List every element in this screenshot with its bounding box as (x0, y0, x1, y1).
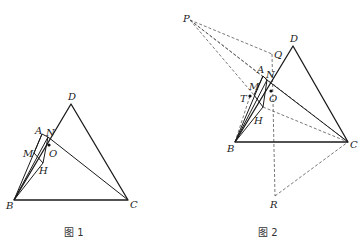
point-o-dot (47, 143, 50, 146)
dashed-pq (190, 20, 272, 54)
label-h-2: H (253, 115, 263, 126)
caption-figure-2: 图 2 (258, 227, 278, 238)
label-q: Q (274, 49, 282, 60)
label-r: R (269, 199, 278, 210)
geometry-diagram: D A N O M H B C 图 1 P Q D A N M (0, 0, 363, 246)
label-a: A (34, 125, 42, 136)
label-t: T (240, 93, 248, 104)
segment-nc (48, 137, 128, 200)
figure-1: D A N O M H B C 图 1 (5, 91, 138, 238)
figure-2: P Q D A N M T O H B C R 图 2 (182, 13, 358, 238)
triangle-bcd-2 (235, 46, 348, 142)
label-d: D (67, 91, 76, 102)
label-p: P (182, 13, 190, 24)
segment-nc-2 (267, 80, 348, 142)
dashed-rc (275, 142, 348, 196)
label-d-2: D (289, 33, 298, 44)
dashed-pm (190, 20, 254, 95)
label-c-2: C (350, 139, 358, 150)
label-n: N (45, 127, 56, 138)
label-c: C (130, 199, 138, 210)
label-m: M (22, 148, 34, 159)
label-n-2: N (265, 69, 276, 80)
caption-figure-1: 图 1 (64, 227, 84, 238)
point-t-dot (248, 94, 251, 97)
label-h: H (38, 165, 48, 176)
label-b: B (5, 200, 13, 211)
label-m-2: M (248, 81, 260, 92)
label-o-2: O (269, 93, 277, 104)
label-b-2: B (226, 143, 234, 154)
label-a-2: A (256, 64, 264, 75)
dashed-hc (263, 107, 348, 142)
label-o: O (49, 148, 57, 159)
